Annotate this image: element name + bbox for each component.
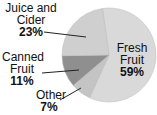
- label-canned: Canned Fruit 11%: [2, 51, 42, 87]
- label-fresh: Fresh Fruit 59%: [110, 42, 154, 78]
- label-other: Other 7%: [36, 89, 62, 113]
- slice-juice-and-cider: [62, 8, 109, 55]
- label-juice: Juice and Cider 23%: [2, 2, 60, 38]
